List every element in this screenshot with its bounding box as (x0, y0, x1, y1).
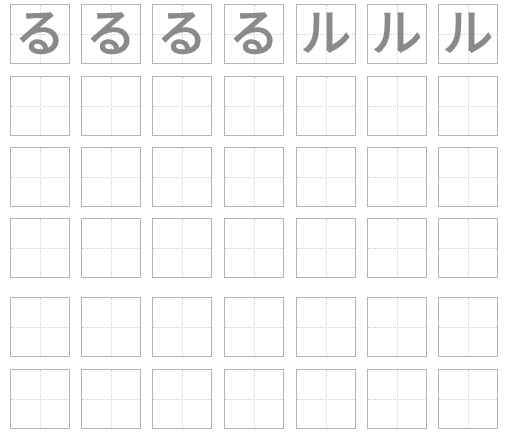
practice-box[interactable] (224, 218, 284, 278)
horizontal-guide (297, 327, 355, 328)
practice-box[interactable] (224, 76, 284, 136)
model-row: る る る る ル ル ル (10, 4, 500, 65)
practice-box[interactable] (296, 297, 356, 357)
horizontal-guide (439, 327, 497, 328)
model-glyph: ル (297, 5, 355, 63)
model-glyph: ル (368, 5, 426, 63)
practice-box[interactable] (367, 147, 427, 207)
horizontal-guide (439, 399, 497, 400)
practice-row (10, 76, 500, 137)
practice-box[interactable] (296, 76, 356, 136)
practice-box[interactable] (367, 76, 427, 136)
horizontal-guide (153, 177, 211, 178)
practice-box[interactable] (152, 76, 212, 136)
model-glyph: る (225, 5, 283, 63)
horizontal-guide (11, 177, 69, 178)
horizontal-guide (11, 106, 69, 107)
horizontal-guide (225, 177, 283, 178)
horizontal-guide (225, 106, 283, 107)
model-box: る (10, 4, 70, 64)
practice-box[interactable] (10, 369, 70, 429)
practice-box[interactable] (438, 297, 498, 357)
practice-box[interactable] (81, 218, 141, 278)
horizontal-guide (297, 106, 355, 107)
horizontal-guide (225, 399, 283, 400)
model-glyph: ル (439, 5, 497, 63)
practice-box[interactable] (224, 147, 284, 207)
horizontal-guide (439, 248, 497, 249)
practice-box[interactable] (224, 369, 284, 429)
horizontal-guide (368, 327, 426, 328)
practice-box[interactable] (152, 369, 212, 429)
practice-box[interactable] (367, 369, 427, 429)
horizontal-guide (82, 399, 140, 400)
practice-box[interactable] (296, 218, 356, 278)
practice-box[interactable] (438, 369, 498, 429)
horizontal-guide (82, 177, 140, 178)
horizontal-guide (368, 248, 426, 249)
practice-box[interactable] (152, 218, 212, 278)
horizontal-guide (11, 327, 69, 328)
practice-box[interactable] (438, 76, 498, 136)
model-glyph: る (11, 5, 69, 63)
practice-box[interactable] (152, 297, 212, 357)
writing-practice-sheet: る る る る ル ル ル (0, 0, 506, 443)
practice-box[interactable] (81, 297, 141, 357)
practice-box[interactable] (296, 369, 356, 429)
practice-box[interactable] (10, 218, 70, 278)
practice-box[interactable] (367, 297, 427, 357)
practice-box[interactable] (438, 147, 498, 207)
practice-box[interactable] (81, 76, 141, 136)
practice-box[interactable] (438, 218, 498, 278)
practice-box[interactable] (81, 369, 141, 429)
horizontal-guide (368, 399, 426, 400)
horizontal-guide (153, 106, 211, 107)
practice-box[interactable] (81, 147, 141, 207)
horizontal-guide (368, 106, 426, 107)
model-box: る (152, 4, 212, 64)
practice-row (10, 218, 500, 279)
horizontal-guide (297, 399, 355, 400)
practice-box[interactable] (367, 218, 427, 278)
practice-box[interactable] (296, 147, 356, 207)
horizontal-guide (297, 248, 355, 249)
practice-box[interactable] (10, 76, 70, 136)
horizontal-guide (11, 399, 69, 400)
horizontal-guide (82, 248, 140, 249)
model-box: ル (438, 4, 498, 64)
horizontal-guide (153, 248, 211, 249)
practice-row (10, 369, 500, 430)
model-box: る (224, 4, 284, 64)
model-glyph: る (153, 5, 211, 63)
practice-row (10, 147, 500, 208)
practice-box[interactable] (10, 147, 70, 207)
model-box: ル (296, 4, 356, 64)
practice-box[interactable] (10, 297, 70, 357)
horizontal-guide (439, 177, 497, 178)
practice-row (10, 297, 500, 358)
practice-box[interactable] (152, 147, 212, 207)
model-glyph: る (82, 5, 140, 63)
horizontal-guide (225, 327, 283, 328)
practice-box[interactable] (224, 297, 284, 357)
horizontal-guide (153, 399, 211, 400)
horizontal-guide (153, 327, 211, 328)
horizontal-guide (297, 177, 355, 178)
model-box: る (81, 4, 141, 64)
horizontal-guide (225, 248, 283, 249)
horizontal-guide (368, 177, 426, 178)
horizontal-guide (82, 106, 140, 107)
horizontal-guide (439, 106, 497, 107)
model-box: ル (367, 4, 427, 64)
horizontal-guide (82, 327, 140, 328)
horizontal-guide (11, 248, 69, 249)
